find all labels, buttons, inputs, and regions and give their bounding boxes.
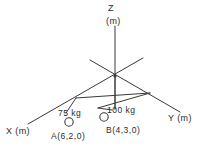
construction-line-a-x (76, 93, 150, 98)
point-a-coord-label: A(6,2,0) (51, 131, 85, 141)
figure-canvas: Z (m) X (m) Y (m) 75 kg 100 kg A(6,2,0) … (0, 0, 206, 152)
x-axis-label: X (m) (6, 126, 30, 136)
z-axis-unit-label: (m) (106, 16, 121, 26)
point-b-coord-label: B(4,3,0) (106, 125, 140, 135)
mass-a-weight-label: 75 kg (58, 108, 81, 118)
z-axis-label: Z (108, 3, 114, 13)
mass-a-marker (65, 118, 73, 126)
mass-b-weight-label: 100 kg (107, 105, 136, 115)
coordinate-system-drawing (0, 0, 206, 152)
origin-marker (113, 74, 116, 77)
y-axis-label: Y (m) (168, 113, 192, 123)
